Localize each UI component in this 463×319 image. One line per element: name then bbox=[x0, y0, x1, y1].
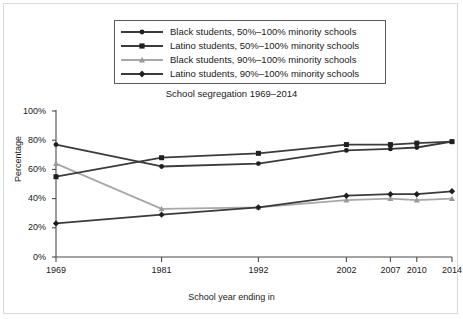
figure-frame: Black students, 50%–100% minority school… bbox=[3, 3, 458, 314]
x-tick-label: 1981 bbox=[142, 266, 182, 275]
y-tick-label: 100% bbox=[12, 107, 46, 116]
y-tick-label: 0% bbox=[12, 253, 46, 262]
x-tick-label: 1992 bbox=[238, 266, 278, 275]
x-tick-label: 2002 bbox=[326, 266, 366, 275]
y-tick-label: 60% bbox=[12, 165, 46, 174]
x-tick-label: 1969 bbox=[36, 266, 76, 275]
x-tick-label: 2010 bbox=[397, 266, 437, 275]
y-tick-label: 80% bbox=[12, 136, 46, 145]
y-tick-label: 40% bbox=[12, 194, 46, 203]
x-tick-label: 2014 bbox=[432, 266, 463, 275]
chart-figure: Black students, 50%–100% minority school… bbox=[4, 4, 459, 315]
y-tick-label: 20% bbox=[12, 223, 46, 232]
